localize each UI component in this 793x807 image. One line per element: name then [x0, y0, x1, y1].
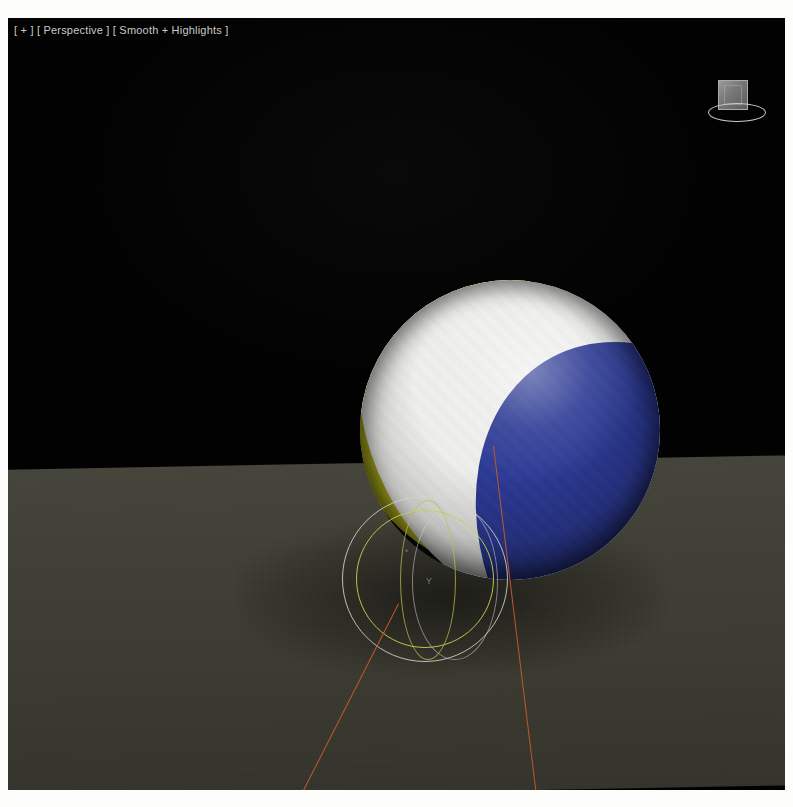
light-ring-gizmo: [708, 103, 766, 122]
gizmo-center-point: [405, 549, 408, 552]
viewport-label[interactable]: [ + ] [ Perspective ] [ Smooth + Highlig…: [14, 24, 228, 36]
perspective-viewport[interactable]: Y [ + ] [ Perspective ] [ Smooth + Highl…: [8, 18, 785, 790]
page-root: Y [ + ] [ Perspective ] [ Smooth + Highl…: [0, 0, 793, 807]
omni-light-gizmo[interactable]: [708, 80, 768, 128]
axis-tick-label: Y: [426, 576, 433, 586]
